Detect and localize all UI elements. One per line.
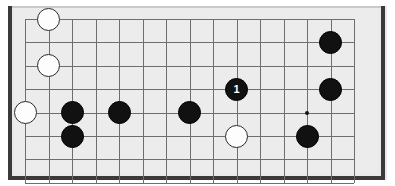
go-diagram-screenshot: 1 xyxy=(0,0,395,186)
go-board-playing-field xyxy=(14,8,378,174)
board-edge-bottom xyxy=(8,176,385,180)
board-edge-top xyxy=(8,6,385,8)
board-edge-left xyxy=(8,6,12,180)
grid-line-horizontal xyxy=(25,183,354,184)
board-edge-right xyxy=(381,6,385,180)
